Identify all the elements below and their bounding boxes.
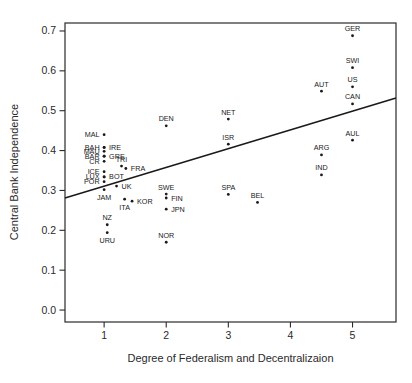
point-FIN <box>165 197 168 200</box>
y-axis-title: Central Bank Independence <box>8 92 20 252</box>
x-tick-label: 4 <box>288 329 294 341</box>
y-tick-label: 0.6 <box>41 64 56 76</box>
point-ITA <box>123 198 126 201</box>
point-SWE <box>165 193 168 196</box>
point-label-POR: POR <box>84 177 100 186</box>
point-label-CAN: CAN <box>345 92 360 101</box>
point-label-US: US <box>348 75 358 84</box>
point-label-SWE: SWE <box>158 183 175 192</box>
point-label-IND: IND <box>315 163 327 172</box>
point-IND <box>320 173 323 176</box>
point-label-ARG: ARG <box>314 143 330 152</box>
point-label-AUL: AUL <box>346 129 360 138</box>
point-label-CR: CR <box>89 157 99 166</box>
y-tick-label: 0.2 <box>41 224 56 236</box>
point-GER <box>351 34 354 37</box>
point-NZ <box>106 223 109 226</box>
point-label-BEL: BEL <box>251 191 265 200</box>
point-label-NOR: NOR <box>158 231 174 240</box>
x-tick-label: 2 <box>163 329 169 341</box>
point-MAL <box>103 133 106 136</box>
point-ISR <box>227 143 230 146</box>
point-label-ISR: ISR <box>222 133 234 142</box>
point-ARG <box>320 154 323 157</box>
point-UK <box>115 185 118 188</box>
y-tick-label: 0.4 <box>41 144 56 156</box>
point-NET <box>227 118 230 121</box>
point-FRA <box>124 167 127 170</box>
point-label-ITA: ITA <box>119 203 130 212</box>
point-label-SWI: SWI <box>346 56 360 65</box>
point-label-AUT: AUT <box>314 80 329 89</box>
point-label-NZ: NZ <box>102 213 112 222</box>
point-label-JPN: JPN <box>171 205 185 214</box>
point-label-TRI: TRI <box>116 155 128 164</box>
point-BOT <box>103 175 106 178</box>
point-label-URU: URU <box>99 236 115 245</box>
point-AUT <box>320 90 323 93</box>
point-label-NET: NET <box>221 108 236 117</box>
point-label-KOR: KOR <box>137 197 153 206</box>
point-label-JAM: JAM <box>97 193 111 202</box>
point-label-FIN: FIN <box>171 194 183 203</box>
y-tick-label: 0.7 <box>41 24 56 36</box>
point-IRE <box>103 146 106 149</box>
scatter-plot-figure: 123450.00.10.20.30.40.50.60.7GERSWIUSCAN… <box>0 0 412 383</box>
point-SWI <box>351 66 354 69</box>
point-CR <box>103 160 106 163</box>
point-CAN <box>351 103 354 106</box>
point-JAM <box>103 188 106 191</box>
point-label-BOT: BOT <box>109 172 124 181</box>
point-label-SPA: SPA <box>221 183 235 192</box>
point-TRI <box>120 165 123 168</box>
point-ICE <box>103 170 106 173</box>
y-tick-label: 0.0 <box>41 304 56 316</box>
point-BEL <box>256 201 259 204</box>
scatter-plot-canvas: 123450.00.10.20.30.40.50.60.7GERSWIUSCAN… <box>0 0 412 383</box>
point-NOR <box>165 241 168 244</box>
point-label-MAL: MAL <box>85 130 100 139</box>
y-tick-label: 0.5 <box>41 104 56 116</box>
point-AUL <box>351 139 354 142</box>
point-POR <box>103 180 106 183</box>
point-label-GER: GER <box>345 24 361 33</box>
y-tick-label: 0.1 <box>41 264 56 276</box>
point-US <box>351 85 354 88</box>
point-DEN <box>165 124 168 127</box>
point-URU <box>106 231 109 234</box>
point-KOR <box>131 200 134 203</box>
x-axis-title: Degree of Federalism and Decentralizaion <box>65 352 396 364</box>
point-JPN <box>165 208 168 211</box>
x-tick-label: 5 <box>350 329 356 341</box>
y-tick-label: 0.3 <box>41 184 56 196</box>
x-tick-label: 1 <box>101 329 107 341</box>
point-label-FRA: FRA <box>131 164 146 173</box>
point-label-DEN: DEN <box>159 114 174 123</box>
point-SPA <box>227 193 230 196</box>
point-label-IRE: IRE <box>109 143 121 152</box>
x-tick-label: 3 <box>225 329 231 341</box>
point-MAU <box>103 150 106 153</box>
point-GRE <box>103 155 106 158</box>
point-label-UK: UK <box>122 182 132 191</box>
